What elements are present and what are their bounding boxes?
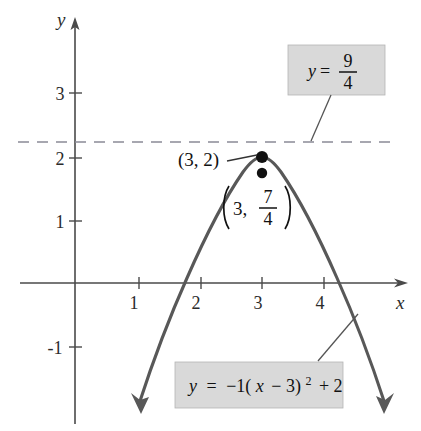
parabola-equation-callout: y = −1( x − 3) 2 + 2 [175,314,358,408]
point-3-seven-fourths [257,168,267,178]
vertex-point-label: (3, 2) [178,149,219,171]
parabola-equation-leader [318,314,358,361]
curve-right-arrowhead [376,393,394,414]
parabola-figure: y x 1 2 3 4 3 2 1 -1 (3, 2) [0,0,421,431]
fraction-label-right-paren [285,186,290,229]
line-equation-equals: = [320,61,330,81]
fraction-point-label-group: 3, 7 4 [224,186,291,229]
line-equation-leader [311,95,331,141]
y-tick-label-1: 1 [56,212,65,232]
y-axis-ticks: 3 2 1 -1 [48,84,83,358]
fraction-label-numerator: 7 [264,187,273,207]
vertex-point [256,151,268,163]
fraction-label-x-value: 3, [233,198,247,219]
line-equation-callout-box [288,45,385,95]
line-equation-callout: y = 9 4 [288,45,385,141]
x-tick-label-1: 1 [130,293,139,313]
x-tick-label-2: 2 [192,293,201,313]
y-tick-label-neg1: -1 [48,338,63,358]
y-tick-label-3: 3 [56,84,65,104]
plotted-points [256,151,268,178]
parabola-equation-inner: − 3) [271,376,301,397]
parabola-equation-lhs: y [187,376,197,396]
fraction-label-denominator: 4 [264,209,273,229]
parabola-equation-equals: = [207,376,217,396]
x-tick-label-3: 3 [254,293,263,313]
x-axis-label: x [395,292,405,313]
y-tick-label-2: 2 [56,149,65,169]
x-tick-label-4: 4 [316,293,325,313]
line-equation-denominator: 4 [344,73,353,93]
y-axis-label: y [55,9,66,30]
parabola-equation-variable: x [255,376,264,396]
parabola-equation-tail: + 2 [319,376,343,396]
parabola-equation-exponent: 2 [305,374,311,388]
line-equation-numerator: 9 [344,51,353,71]
parabola-equation-coefficient: −1( [226,376,251,397]
line-equation-lhs: y [306,61,316,81]
